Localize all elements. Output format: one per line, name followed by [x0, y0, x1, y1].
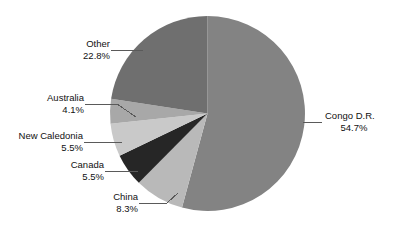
callout-canada: Canada 5.5%	[24, 159, 104, 182]
callout-other-label: Other	[30, 38, 110, 50]
callout-australia-percent: 4.1%	[4, 104, 84, 116]
callout-australia-label: Australia	[4, 92, 84, 104]
callout-new-caledonia-percent: 5.5%	[0, 142, 83, 154]
callout-australia: Australia 4.1%	[4, 92, 84, 115]
callout-china-percent: 8.3%	[58, 203, 138, 215]
callout-congo-dr-percent: 54.7%	[325, 122, 383, 134]
pie-slices	[110, 16, 305, 211]
callout-other-percent: 22.8%	[30, 50, 110, 62]
callout-congo-dr-label: Congo D.R.	[325, 110, 393, 122]
callout-congo-dr: Congo D.R. 54.7%	[325, 110, 393, 133]
callout-new-caledonia: New Caledonia 5.5%	[0, 130, 83, 153]
callout-china: China 8.3%	[58, 191, 138, 214]
callout-china-label: China	[58, 191, 138, 203]
pie-slice-other[interactable]	[111, 16, 207, 114]
callout-canada-label: Canada	[24, 159, 104, 171]
callout-new-caledonia-label: New Caledonia	[0, 130, 83, 142]
callout-other: Other 22.8%	[30, 38, 110, 61]
callout-canada-percent: 5.5%	[24, 171, 104, 183]
pie-chart: Other 22.8% Australia 4.1% New Caledonia…	[0, 0, 393, 236]
